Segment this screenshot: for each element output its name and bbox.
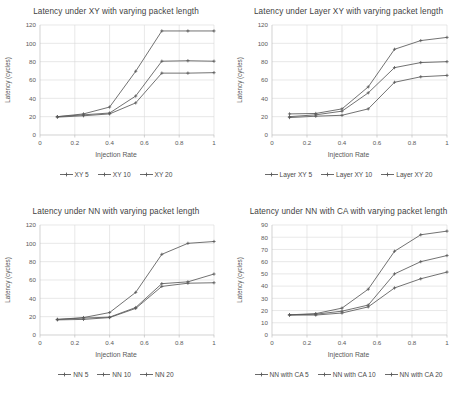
svg-text:0.8: 0.8	[408, 139, 417, 146]
svg-text:0.6: 0.6	[140, 339, 149, 346]
svg-text:100: 100	[26, 240, 37, 247]
svg-text:20: 20	[261, 307, 268, 314]
legend-label: NN with CA 10	[333, 371, 376, 378]
svg-text:1: 1	[445, 139, 449, 146]
legend-item[interactable]: NN 10	[97, 371, 131, 378]
svg-text:0.2: 0.2	[70, 139, 79, 146]
svg-text:Latency (cycles): Latency (cycles)	[4, 257, 12, 303]
svg-text:0: 0	[33, 331, 37, 338]
svg-text:60: 60	[261, 76, 268, 83]
svg-text:90: 90	[261, 221, 268, 228]
legend-label: NN 5	[73, 371, 88, 378]
legend-item[interactable]: XY 20	[140, 171, 173, 178]
svg-text:120: 120	[26, 21, 37, 28]
svg-text:40: 40	[29, 95, 36, 102]
svg-text:100: 100	[258, 40, 269, 47]
chart-panel-chart-xy: Latency under XY with varying packet len…	[0, 0, 232, 200]
svg-text:0: 0	[270, 339, 274, 346]
svg-text:120: 120	[258, 21, 269, 28]
svg-text:Latency (cycles): Latency (cycles)	[4, 57, 12, 103]
chart-legend: NN with CA 5NN with CA 10NN with CA 20	[232, 371, 465, 378]
svg-text:1: 1	[445, 339, 449, 346]
plot-area: 02040608010012000.20.40.60.81Latency (cy…	[232, 19, 465, 157]
svg-text:0: 0	[265, 131, 269, 138]
svg-text:0: 0	[38, 339, 42, 346]
svg-text:0.4: 0.4	[105, 339, 114, 346]
legend-label: NN 10	[112, 371, 131, 378]
svg-text:80: 80	[29, 258, 36, 265]
chart-title: Latency under NN with CA with varying pa…	[232, 207, 465, 216]
chart-panel-chart-nn-ca: Latency under NN with CA with varying pa…	[232, 200, 465, 405]
legend-marker-icon	[58, 371, 71, 378]
legend-label: XY 5	[75, 171, 89, 178]
svg-text:70: 70	[261, 246, 268, 253]
legend-marker-icon	[385, 371, 398, 378]
svg-text:40: 40	[29, 295, 36, 302]
svg-text:0.4: 0.4	[105, 139, 114, 146]
legend-item[interactable]: NN with CA 10	[318, 371, 376, 378]
legend-item[interactable]: XY 5	[60, 171, 89, 178]
svg-text:0.6: 0.6	[140, 139, 149, 146]
svg-text:0.4: 0.4	[338, 339, 347, 346]
x-axis-label: Injection Rate	[232, 151, 465, 158]
legend-item[interactable]: Layer XY 10	[321, 171, 372, 178]
svg-text:0.6: 0.6	[373, 139, 382, 146]
svg-text:80: 80	[261, 58, 268, 65]
svg-text:20: 20	[29, 113, 36, 120]
svg-text:20: 20	[261, 113, 268, 120]
svg-text:0.2: 0.2	[303, 339, 312, 346]
svg-text:0.4: 0.4	[338, 139, 347, 146]
legend-label: XY 10	[113, 171, 131, 178]
svg-text:80: 80	[29, 58, 36, 65]
legend-item[interactable]: Layer XY 20	[381, 171, 432, 178]
chart-legend: Layer XY 5Layer XY 10Layer XY 20	[232, 171, 465, 178]
legend-marker-icon	[381, 171, 394, 178]
legend-label: NN with CA 5	[270, 371, 309, 378]
legend-marker-icon	[321, 171, 334, 178]
svg-text:Latency (cycles): Latency (cycles)	[236, 257, 244, 303]
legend-item[interactable]: NN 20	[140, 371, 174, 378]
svg-text:40: 40	[261, 282, 268, 289]
legend-label: Layer XY 20	[396, 171, 432, 178]
svg-text:0: 0	[270, 139, 274, 146]
legend-item[interactable]: NN with CA 20	[385, 371, 443, 378]
chart-panel-chart-layer-xy: Latency under Layer XY with varying pack…	[232, 0, 465, 200]
legend-label: Layer XY 5	[280, 171, 313, 178]
svg-text:20: 20	[29, 313, 36, 320]
legend-marker-icon	[265, 171, 278, 178]
svg-text:60: 60	[261, 258, 268, 265]
svg-text:0: 0	[38, 139, 42, 146]
svg-text:30: 30	[261, 295, 268, 302]
legend-marker-icon	[318, 371, 331, 378]
svg-text:40: 40	[261, 95, 268, 102]
plot-area: 010203040506070809000.20.40.60.81Latency…	[232, 219, 465, 357]
legend-marker-icon	[255, 371, 268, 378]
legend-label: Layer XY 10	[336, 171, 372, 178]
svg-text:0.8: 0.8	[175, 339, 184, 346]
legend-item[interactable]: NN with CA 5	[255, 371, 309, 378]
legend-marker-icon	[60, 171, 73, 178]
legend-marker-icon	[140, 171, 153, 178]
svg-text:100: 100	[26, 40, 37, 47]
chart-title: Latency under XY with varying packet len…	[0, 7, 232, 16]
svg-text:0.2: 0.2	[303, 139, 312, 146]
legend-item[interactable]: Layer XY 5	[265, 171, 313, 178]
svg-text:0.8: 0.8	[408, 339, 417, 346]
chart-title: Latency under Layer XY with varying pack…	[232, 7, 465, 16]
svg-text:0.6: 0.6	[373, 339, 382, 346]
svg-text:120: 120	[26, 221, 37, 228]
plot-area: 02040608010012000.20.40.60.81Latency (cy…	[0, 219, 232, 357]
svg-text:Latency (cycles): Latency (cycles)	[236, 57, 244, 103]
x-axis-label: Injection Rate	[0, 351, 232, 358]
svg-text:50: 50	[261, 270, 268, 277]
svg-text:0.8: 0.8	[175, 139, 184, 146]
svg-text:80: 80	[261, 234, 268, 241]
plot-area: 02040608010012000.20.40.60.81Latency (cy…	[0, 19, 232, 157]
chart-legend: XY 5XY 10XY 20	[0, 171, 232, 178]
legend-item[interactable]: NN 5	[58, 371, 88, 378]
x-axis-label: Injection Rate	[0, 151, 232, 158]
legend-marker-icon	[98, 171, 111, 178]
chart-legend: NN 5NN 10NN 20	[0, 371, 232, 378]
legend-item[interactable]: XY 10	[98, 171, 131, 178]
legend-label: XY 20	[155, 171, 173, 178]
